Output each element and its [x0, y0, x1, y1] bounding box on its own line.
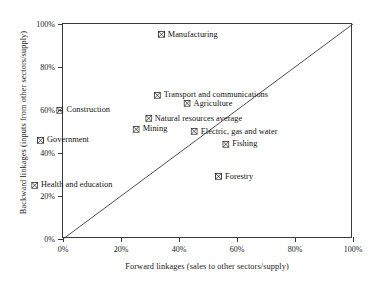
crossed-square-marker-icon: [158, 31, 165, 38]
y-tick-mark: [58, 196, 63, 197]
x-tick-mark: [353, 237, 354, 242]
data-point: Forestry: [215, 172, 253, 180]
data-point: Electric, gas and water: [191, 127, 278, 135]
crossed-square-marker-icon: [184, 100, 191, 107]
crossed-square-marker-icon: [133, 126, 140, 133]
data-point-label: Mining: [143, 125, 168, 133]
crossed-square-marker-icon: [222, 141, 229, 148]
scatter-chart-figure: Backward linkages (inputs from other sec…: [0, 0, 379, 285]
data-point: Government: [37, 136, 89, 144]
y-tick-mark: [58, 67, 63, 68]
data-point-label: Construction: [67, 106, 110, 114]
data-point: Fishing: [222, 140, 257, 148]
x-tick-mark: [295, 237, 296, 242]
y-tick-label: 0%: [44, 235, 55, 244]
data-point-label: Electric, gas and water: [201, 127, 278, 135]
data-point: Natural resources average: [145, 114, 242, 122]
data-point-label: Forestry: [225, 172, 253, 180]
y-tick-label: 20%: [40, 192, 55, 201]
x-tick-mark: [121, 237, 122, 242]
crossed-square-marker-icon: [191, 128, 198, 135]
y-tick-label: 100%: [36, 20, 55, 29]
x-tick-mark: [237, 237, 238, 242]
crossed-square-marker-icon: [31, 182, 38, 189]
data-point: Mining: [133, 125, 168, 133]
crossed-square-marker-icon: [145, 115, 152, 122]
crossed-square-marker-icon: [37, 137, 44, 144]
data-point-label: Agriculture: [194, 99, 233, 107]
y-tick-label: 60%: [40, 106, 55, 115]
y-tick-label: 40%: [40, 149, 55, 158]
data-point: Health and education: [31, 181, 113, 189]
y-tick-mark: [58, 24, 63, 25]
x-tick-label: 100%: [344, 245, 363, 254]
x-tick-label: 20%: [114, 245, 129, 254]
x-tick-label: 0%: [58, 245, 69, 254]
data-point: Construction: [57, 106, 110, 114]
x-tick-mark: [63, 237, 64, 242]
x-axis-title: Forward linkages (sales to other sectors…: [62, 262, 352, 271]
data-point-label: Fishing: [232, 140, 257, 148]
crossed-square-marker-icon: [57, 106, 64, 113]
data-point-label: Government: [47, 136, 89, 144]
data-point-label: Health and education: [41, 181, 113, 189]
plot-area: 0%20%40%60%80%100% 0%20%40%60%80%100% Ma…: [62, 23, 352, 238]
x-tick-mark: [179, 237, 180, 242]
x-tick-label: 40%: [172, 245, 187, 254]
data-point: Agriculture: [184, 99, 233, 107]
y-axis-title: Backward linkages (inputs from other sec…: [19, 8, 28, 238]
data-point: Manufacturing: [158, 31, 218, 39]
crossed-square-marker-icon: [215, 173, 222, 180]
crossed-square-marker-icon: [154, 91, 161, 98]
data-point-label: Natural resources average: [155, 114, 242, 122]
data-point-label: Manufacturing: [168, 31, 218, 39]
y-tick-mark: [58, 153, 63, 154]
y-tick-label: 80%: [40, 63, 55, 72]
x-tick-label: 60%: [230, 245, 245, 254]
x-tick-label: 80%: [288, 245, 303, 254]
